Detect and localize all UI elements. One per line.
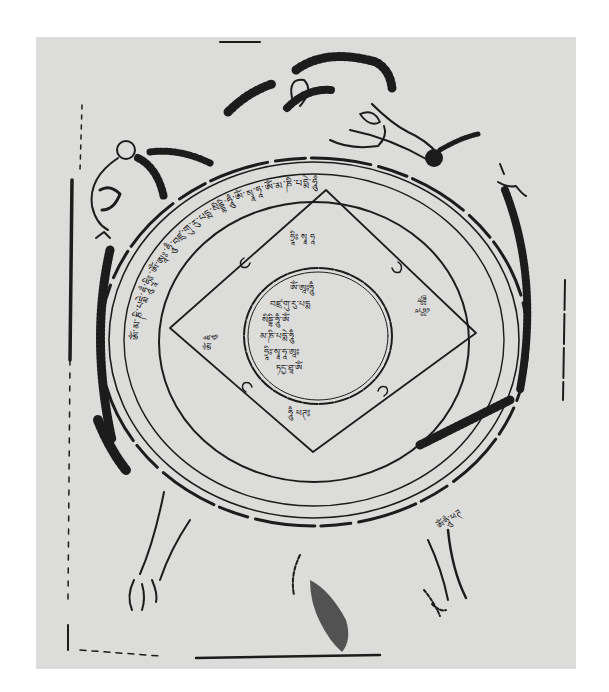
tail-inscription: ཨོཾ་ཧཱུྃ་ཕཊ bbox=[434, 506, 465, 535]
center-line-2: བཛྲ་གུ་རུ་པདྨ bbox=[270, 299, 311, 312]
center-inscription: ཨོཾ་ཨཱཿཧཱུྃ བཛྲ་གུ་རུ་པདྨ སིདྡྷི་ཧཱུྃ་ཨོ… bbox=[260, 280, 315, 376]
tortoise-mandala-illustration: ཨོཾ་མ་ཎི་པདྨེ་ཧཱུྃ་ཧྲཱིཿ་ཨོཾ་ཨཱཿ་ཧཱུྃ་བཛ… bbox=[0, 0, 609, 692]
ring-band-inscription: ཨོཾ་མ་ཎི་པདྨེ་ཧཱུྃ་ཧྲཱིཿ་ཨོཾ་ཨཱཿ་ཧཱུྃ་བཛ… bbox=[128, 174, 318, 340]
center-line-4: མ་ཎི་པདྨེ་ཧཱུྃ bbox=[260, 329, 295, 344]
center-line-5: ཧྲཱིཿ་སྭཱ་ཧཱ་ཨཱཿ bbox=[264, 345, 299, 361]
diamond-left-inscription: ཨོཾ ཧཱུྃ bbox=[202, 334, 218, 350]
tortoise-back-left-leg bbox=[129, 492, 190, 610]
diamond-bottom-inscription: ཧཱུྃ ཕཊ༔ bbox=[287, 406, 310, 421]
diamond-top-inscription: ཧྲཱིཿ སྭཱ ཧཱ bbox=[290, 230, 316, 246]
central-diamond bbox=[170, 190, 476, 452]
center-line-1: ཨོཾ་ཨཱཿཧཱུྃ bbox=[290, 280, 315, 296]
tortoise-tail-leg bbox=[293, 555, 348, 652]
tortoise-head bbox=[228, 57, 478, 167]
image-canvas: ཨོཾ་མ་ཎི་པདྨེ་ཧཱུྃ་ཧྲཱིཿ་ཨོཾ་ཨཱཿ་ཧཱུྃ་བཛ… bbox=[0, 0, 609, 692]
tortoise-back-right-leg bbox=[424, 530, 466, 616]
center-line-3: སིདྡྷི་ཧཱུྃ་ཨོཾ bbox=[262, 312, 290, 328]
diamond-right-inscription: ཨཱཿ ཧྲཱིཿ bbox=[414, 295, 430, 316]
center-line-6: ཏདྱ་ཐཱ་ཨོཾ bbox=[276, 360, 303, 376]
